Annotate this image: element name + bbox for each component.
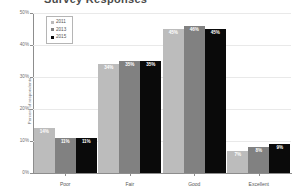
bars: 34%35%35% bbox=[98, 13, 163, 173]
bar-value-label: 45% bbox=[205, 31, 226, 36]
bar[interactable]: 46% bbox=[184, 26, 205, 173]
bar[interactable]: 11% bbox=[76, 138, 97, 173]
bar-group: 34%35%35%Fair bbox=[98, 13, 163, 173]
legend-item[interactable]: 2013 bbox=[51, 28, 66, 33]
bar[interactable]: 8% bbox=[248, 147, 269, 173]
bar-value-label: 35% bbox=[119, 63, 140, 68]
y-axis-title: Percent of respondents bbox=[27, 77, 32, 124]
category-label: Fair bbox=[98, 181, 163, 187]
bar[interactable]: 34% bbox=[98, 64, 119, 173]
bars: 7%8%9% bbox=[227, 13, 292, 173]
chart-legend: 201120132015 bbox=[46, 16, 73, 44]
bar[interactable]: 7% bbox=[227, 151, 248, 173]
legend-label: 2015 bbox=[56, 35, 66, 40]
bar-group: 45%46%45%Good bbox=[162, 13, 227, 173]
bar-value-label: 46% bbox=[184, 28, 205, 33]
category-label: Excellent bbox=[227, 181, 292, 187]
bar-value-label: 8% bbox=[248, 149, 269, 154]
y-tick-label: 50% bbox=[20, 11, 29, 16]
y-tick-label: 10% bbox=[20, 139, 29, 144]
bar[interactable]: 35% bbox=[140, 61, 161, 173]
x-axis-line bbox=[33, 173, 292, 174]
bar[interactable]: 11% bbox=[55, 138, 76, 173]
chart-title: Survey Responses bbox=[44, 0, 147, 5]
bar-value-label: 35% bbox=[140, 63, 161, 68]
category-label: Good bbox=[162, 181, 227, 187]
legend-item[interactable]: 2015 bbox=[51, 35, 66, 40]
bar-value-label: 34% bbox=[98, 66, 119, 71]
bar-value-label: 7% bbox=[227, 153, 248, 158]
legend-item[interactable]: 2011 bbox=[51, 20, 66, 25]
y-tick-mark bbox=[30, 173, 33, 174]
bar-value-label: 11% bbox=[76, 140, 97, 145]
bar[interactable]: 45% bbox=[163, 29, 184, 173]
bar-chart: Percent of respondents 0%10%20%30%40%50%… bbox=[0, 7, 297, 194]
bars: 45%46%45% bbox=[162, 13, 227, 173]
x-tick-mark bbox=[130, 173, 131, 176]
x-tick-mark bbox=[259, 173, 260, 176]
y-tick-label: 0% bbox=[22, 171, 29, 176]
legend-swatch-icon bbox=[51, 28, 54, 31]
y-tick-label: 40% bbox=[20, 43, 29, 48]
legend-swatch-icon bbox=[51, 21, 54, 24]
bar-value-label: 14% bbox=[34, 130, 55, 135]
bar[interactable]: 14% bbox=[34, 128, 55, 173]
x-tick-mark bbox=[65, 173, 66, 176]
bar-value-label: 45% bbox=[163, 31, 184, 36]
bar[interactable]: 45% bbox=[205, 29, 226, 173]
legend-swatch-icon bbox=[51, 36, 54, 39]
bar[interactable]: 9% bbox=[269, 144, 290, 173]
cropped-title-strip: Survey Responses bbox=[0, 0, 297, 7]
bar[interactable]: 35% bbox=[119, 61, 140, 173]
y-tick-label: 20% bbox=[20, 107, 29, 112]
bar-value-label: 9% bbox=[269, 146, 290, 151]
x-tick-mark bbox=[194, 173, 195, 176]
legend-label: 2011 bbox=[56, 20, 66, 25]
category-label: Poor bbox=[33, 181, 98, 187]
y-tick-label: 30% bbox=[20, 75, 29, 80]
bar-value-label: 11% bbox=[55, 140, 76, 145]
legend-label: 2013 bbox=[56, 28, 66, 33]
bar-group: 7%8%9%Excellent bbox=[227, 13, 292, 173]
